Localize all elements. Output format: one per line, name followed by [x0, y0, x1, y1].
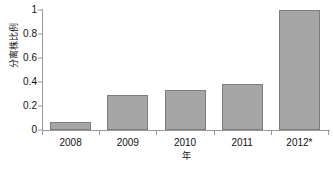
bar — [279, 10, 320, 130]
x-axis-tick-label: 2010 — [174, 137, 196, 148]
plot-area: 00.20.40.60.81 — [42, 10, 328, 130]
bar — [165, 90, 206, 130]
y-axis-tick-label: 0.8 — [23, 29, 42, 39]
x-axis-tick-mark — [99, 130, 100, 135]
x-axis-tick-label: 2008 — [59, 137, 81, 148]
y-axis-tick-label: 0.2 — [23, 101, 42, 111]
x-axis-line — [42, 130, 330, 131]
x-axis-tick-label: 2012* — [286, 137, 312, 148]
x-axis-tick-mark — [156, 130, 157, 135]
y-axis-tick-label: 0.4 — [23, 77, 42, 87]
x-axis-tick-mark — [214, 130, 215, 135]
x-axis-tick-mark — [42, 130, 43, 135]
bar — [107, 95, 148, 130]
bar-chart: 分离株比例 00.20.40.60.81 2008200920102011201… — [0, 0, 333, 172]
x-axis-tick-mark — [271, 130, 272, 135]
y-axis-title: 分离株比例 — [9, 0, 19, 90]
x-axis-tick-mark — [328, 130, 329, 135]
bar — [222, 84, 263, 130]
y-axis-tick-label: 1 — [31, 5, 42, 15]
y-axis-tick-label: 0.6 — [23, 53, 42, 63]
x-axis-tick-label: 2009 — [117, 137, 139, 148]
x-axis-tick-label: 2011 — [231, 137, 253, 148]
x-axis-title: 年 — [42, 151, 330, 162]
y-axis-tick-label: 0 — [31, 125, 42, 135]
bar — [50, 122, 91, 130]
